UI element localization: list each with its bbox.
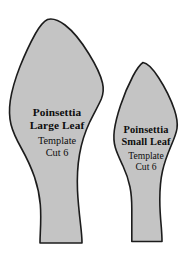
poinsettia-large-leaf-shape — [9, 19, 103, 243]
template-shapes-canvas — [0, 0, 188, 255]
poinsettia-leaf-template-sheet: Poinsettia Large Leaf Template Cut 6 Poi… — [0, 0, 188, 255]
poinsettia-small-leaf-shape — [114, 63, 177, 242]
